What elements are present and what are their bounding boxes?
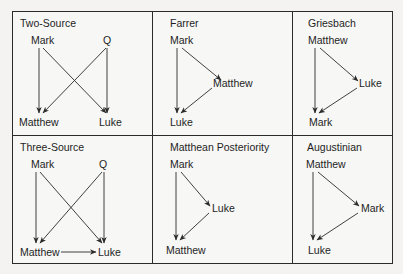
diagram-matthean-posteriority: Matthean Posteriority Mark Luke Matthew [153, 136, 292, 264]
arrows [13, 136, 152, 264]
arrows [153, 136, 292, 264]
arrows [13, 12, 152, 135]
arrows [153, 12, 292, 135]
diagram-three-source: Three-Source Mark Q Matthew Luke [13, 136, 152, 264]
diagram-griesbach: Griesbach Matthew Luke Mark [293, 12, 393, 135]
diagram-farrer: Farrer Mark Matthew Luke [153, 12, 292, 135]
diagram-augustinian: Augustinian Matthew Mark Luke [293, 136, 393, 264]
arrows [293, 136, 393, 264]
synoptic-hypotheses-table: Two-Source Mark Q Matthew Luke Farrer Ma… [12, 11, 393, 264]
arrows [293, 12, 393, 135]
diagram-two-source: Two-Source Mark Q Matthew Luke [13, 12, 152, 135]
